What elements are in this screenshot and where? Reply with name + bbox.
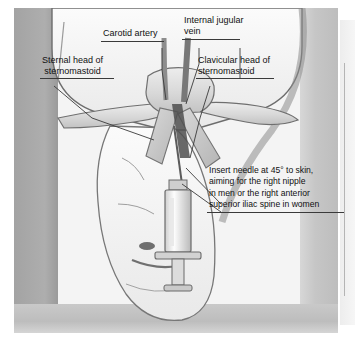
illustration-figure: Carotid artery Internal jugular vein Ste…	[0, 0, 355, 349]
label-clavicular-head: Clavicular head of sternomastoid	[198, 55, 270, 77]
needle-instruction-text: Insert needle at 45° to skin,aiming for …	[209, 165, 343, 210]
instruction-line-1: aiming for the right nipple	[209, 176, 343, 187]
syringe-hub	[169, 180, 187, 190]
label-rule-internal-jugular-vein	[182, 39, 240, 40]
page-edge-rule	[344, 63, 345, 296]
syringe-plunger	[172, 259, 184, 285]
label-sternal-head: Sternal head of sternomastoid	[42, 55, 103, 77]
instruction-line-0: Insert needle at 45° to skin,	[209, 165, 343, 176]
instruction-line-2: in men or the right anterior	[209, 188, 343, 199]
label-carotid-artery: Carotid artery	[103, 28, 158, 39]
instruction-line-3: superior iliac spine in women	[209, 199, 343, 210]
syringe-barrel	[165, 190, 191, 252]
instruction-rule	[207, 212, 344, 213]
syringe-plunger-thumb	[164, 285, 192, 291]
label-rule-clavicular-head	[196, 78, 274, 79]
syringe-highlight	[169, 198, 174, 246]
syringe-flange	[155, 252, 201, 259]
label-internal-jugular-vein: Internal jugular vein	[184, 15, 244, 37]
internal-jugular-vein	[184, 38, 188, 102]
eye-shadow	[139, 242, 155, 250]
label-rule-carotid	[101, 41, 164, 42]
label-rule-sternal-head	[40, 78, 114, 79]
